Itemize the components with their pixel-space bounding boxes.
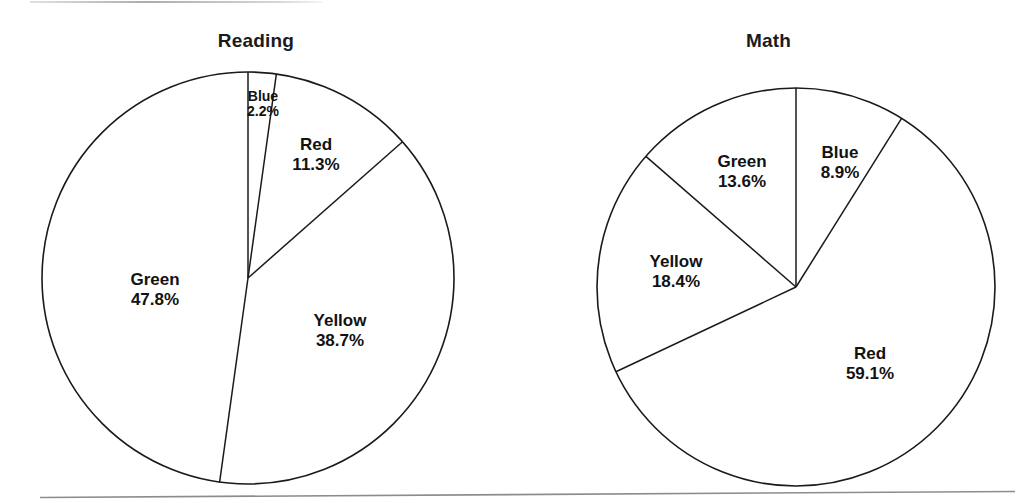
slice-label-name: Red: [854, 344, 886, 363]
slice-label-percent: 8.9%: [821, 163, 860, 183]
slice-label-percent: 13.6%: [717, 172, 766, 192]
scan-artifact-bottom-rule: [40, 489, 1015, 499]
pie-svg-reading: [0, 0, 512, 503]
pie-slice-label-red: Red59.1%: [846, 344, 894, 384]
slice-label-name: Yellow: [314, 311, 367, 330]
slice-label-name: Blue: [822, 143, 859, 162]
slice-label-percent: 2.2%: [247, 104, 279, 119]
scanned-page: Reading Blue2.2%Red11.3%Yellow38.7%Green…: [0, 0, 1025, 503]
pie-slice-label-yellow: Yellow38.7%: [314, 311, 367, 351]
pie-slice-label-green: Green13.6%: [717, 152, 766, 192]
pie-chart-reading: Reading Blue2.2%Red11.3%Yellow38.7%Green…: [0, 0, 512, 503]
pie-slice-label-blue: Blue2.2%: [247, 89, 279, 120]
slice-label-percent: 47.8%: [130, 290, 179, 310]
slice-label-percent: 11.3%: [292, 155, 339, 175]
slice-label-name: Red: [300, 135, 332, 154]
pie-slice-label-green: Green47.8%: [130, 270, 179, 310]
slice-label-name: Green: [717, 152, 766, 171]
pie-slice-label-yellow: Yellow18.4%: [650, 252, 703, 292]
slice-label-percent: 18.4%: [650, 272, 703, 292]
slice-label-name: Green: [130, 270, 179, 289]
pie-slice-label-blue: Blue8.9%: [821, 143, 860, 183]
pie-slice-label-red: Red11.3%: [292, 135, 339, 175]
pie-chart-math: Math Blue8.9%Red59.1%Yellow18.4%Green13.…: [512, 0, 1025, 503]
slice-label-name: Blue: [248, 88, 278, 104]
pie-svg-math: [512, 0, 1025, 503]
slice-label-percent: 59.1%: [846, 364, 894, 384]
slice-label-name: Yellow: [650, 252, 703, 271]
slice-label-percent: 38.7%: [314, 331, 367, 351]
